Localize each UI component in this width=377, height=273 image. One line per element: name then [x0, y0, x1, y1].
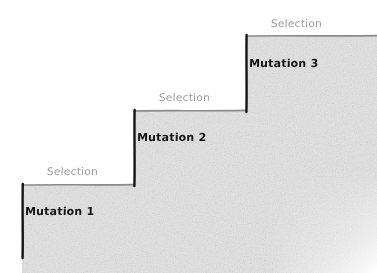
staircase-canvas	[0, 0, 377, 273]
tread-step-2	[135, 110, 246, 111]
staircase-diagram: Selection Mutation 1 Selection Mutation …	[0, 0, 377, 273]
staircase-shading	[0, 0, 377, 273]
